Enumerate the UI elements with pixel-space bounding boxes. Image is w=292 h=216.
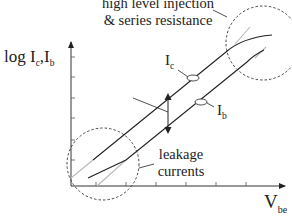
ic-leader [178,70,188,77]
ic-marker [187,75,199,81]
ib-ideal-high [255,47,266,58]
ib-leader [207,103,214,107]
y-axis-label: log Ic,Ib [4,48,55,65]
x-axis-label: Vbe [264,192,287,211]
leakage-line1: leakage [153,147,209,162]
ic-label: Ic [165,53,174,68]
gummel-plot [0,0,292,216]
ic-curve [93,35,272,160]
leakage-annotation: leakage currents [153,147,209,178]
leakage-leader [139,164,154,168]
y-ticks [71,57,75,160]
gain-pointer [133,98,168,112]
ib-ideal-low [97,160,126,186]
high-level-annotation: high level injection & series resistance [98,0,218,27]
ic-ideal-low [71,160,93,178]
high-level-line1: high level injection [98,0,218,11]
x-ticks [96,182,246,186]
high-level-line2: & series resistance [98,13,218,28]
gain-arrow [133,93,172,134]
ib-label: Ib [217,103,227,118]
ib-marker [195,99,207,105]
leakage-line2: currents [153,164,209,179]
leakage-region [67,128,139,200]
